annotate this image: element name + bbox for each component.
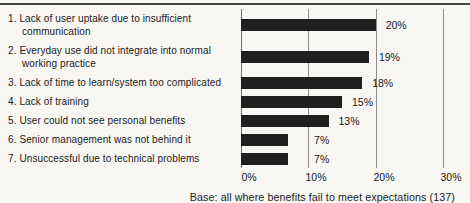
bar	[241, 51, 369, 63]
base-note: Base: all where benefits fail to meet ex…	[0, 191, 470, 203]
bar	[241, 96, 342, 108]
bar-value-label: 18%	[372, 77, 393, 89]
category-label: 6. Senior management was not behind it	[0, 133, 241, 146]
category-label: 7. Unsuccessful due to technical problem…	[0, 152, 241, 165]
category-label: 5. User could not see personal benefits	[0, 114, 241, 127]
x-axis-tick-label: 30%	[440, 171, 461, 183]
bar	[241, 134, 288, 146]
category-row: 5. User could not see personal benefits1…	[0, 111, 470, 130]
bar-value-label: 13%	[339, 115, 360, 127]
bar	[241, 153, 288, 165]
category-row: 7. Unsuccessful due to technical problem…	[0, 149, 470, 168]
category-label: 4. Lack of training	[0, 95, 241, 108]
x-axis-tick-label: 0%	[241, 171, 256, 183]
bar	[241, 77, 362, 89]
category-label: 3. Lack of time to learn/system too comp…	[0, 76, 241, 89]
category-row: 1. Lack of user uptake due to insufficie…	[0, 9, 470, 41]
bar	[241, 115, 329, 127]
bar	[241, 19, 376, 31]
plot-area: 1. Lack of user uptake due to insufficie…	[0, 9, 470, 168]
bar-value-label: 19%	[379, 51, 400, 63]
x-axis: 0%10%20%30%	[0, 171, 470, 184]
category-label: 1. Lack of user uptake due to insufficie…	[0, 12, 241, 38]
category-row: 4. Lack of training15%	[0, 92, 470, 111]
top-rule-divider	[0, 3, 470, 5]
category-row: 2. Everyday use did not integrate into n…	[0, 41, 470, 73]
bar-value-label: 7%	[314, 134, 329, 146]
category-label: 2. Everyday use did not integrate into n…	[0, 44, 241, 70]
category-row: 3. Lack of time to learn/system too comp…	[0, 73, 470, 92]
scanned-bar-chart-figure: 1. Lack of user uptake due to insufficie…	[0, 0, 470, 203]
x-axis-tick-label: 10%	[305, 171, 326, 183]
category-row: 6. Senior management was not behind it7%	[0, 130, 470, 149]
bar-value-label: 15%	[352, 96, 373, 108]
x-axis-tick-label: 20%	[373, 171, 394, 183]
bar-value-label: 20%	[386, 19, 407, 31]
bar-value-label: 7%	[314, 153, 329, 165]
